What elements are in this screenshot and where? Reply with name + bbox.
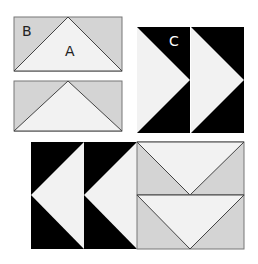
label-b: B [22, 23, 32, 39]
flying-geese-pair-c: C [137, 27, 244, 133]
assembled-block [31, 142, 244, 249]
label-a: A [65, 43, 75, 59]
quilt-diagram: B A C [0, 0, 258, 264]
flying-geese-unit-1: B A [14, 17, 122, 71]
flying-geese-unit-2 [14, 81, 122, 131]
label-c: C [169, 33, 179, 49]
